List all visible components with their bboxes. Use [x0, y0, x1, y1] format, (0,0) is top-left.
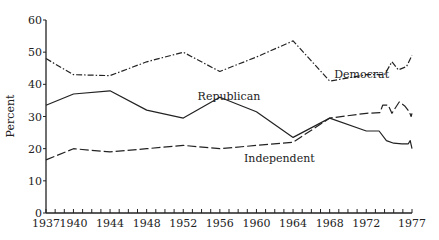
- series-line-independent: [46, 102, 412, 160]
- series-labels: DemocratRepublicanIndependent: [198, 68, 390, 165]
- x-tick-label: 1948: [133, 217, 161, 230]
- series-label-independent: Independent: [244, 152, 315, 165]
- x-tick-label: 1972: [352, 217, 380, 230]
- chart-canvas: 0102030405060193719401944194819521956196…: [0, 0, 439, 240]
- axes: 0102030405060193719401944194819521956196…: [28, 14, 426, 230]
- series-label-democrat: Democrat: [334, 68, 389, 81]
- y-tick-label: 50: [28, 46, 42, 59]
- x-tick-label: 1937: [32, 217, 60, 230]
- x-tick-label: 1968: [316, 217, 344, 230]
- y-tick-label: 30: [28, 111, 42, 124]
- y-tick-label: 10: [28, 175, 42, 188]
- x-tick-label: 1952: [169, 217, 197, 230]
- x-tick-label: 1940: [59, 217, 87, 230]
- series-label-republican: Republican: [198, 90, 261, 103]
- y-tick-label: 40: [28, 78, 42, 91]
- y-axis-title: Percent: [4, 94, 17, 137]
- x-tick-label: 1964: [279, 217, 307, 230]
- x-tick-label: 1956: [206, 217, 234, 230]
- y-tick-label: 20: [28, 143, 42, 156]
- x-tick-label: 1977: [398, 217, 426, 230]
- x-tick-label: 1944: [96, 217, 124, 230]
- x-tick-label: 1960: [242, 217, 270, 230]
- party-identification-chart: 0102030405060193719401944194819521956196…: [0, 0, 439, 240]
- y-tick-label: 60: [28, 14, 42, 27]
